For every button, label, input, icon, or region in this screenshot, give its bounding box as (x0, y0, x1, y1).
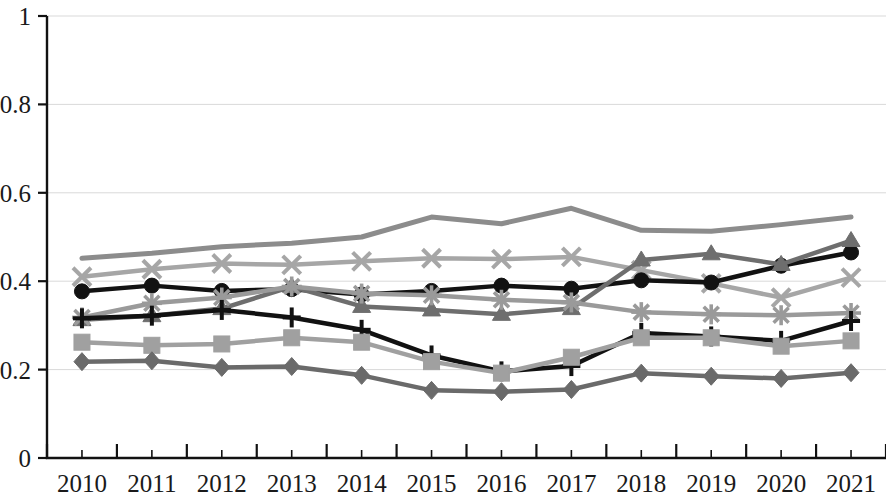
square-marker (74, 334, 90, 350)
square-marker (424, 354, 440, 370)
diamond-marker (74, 353, 90, 371)
series-circle-black (74, 245, 858, 302)
circle-marker (844, 245, 859, 260)
diamond-marker (284, 358, 300, 376)
series-square-gray-line (82, 338, 851, 373)
series-top-gray-nomarker (82, 208, 851, 258)
circle-marker (144, 278, 159, 293)
diamond-marker (493, 383, 509, 401)
chart-plot-area: 10.80.60.40.20 2010201120122013201420152… (0, 0, 886, 500)
circle-marker (704, 275, 719, 290)
plus-marker (283, 307, 301, 327)
star-marker (771, 305, 791, 325)
square-marker (843, 333, 859, 349)
series-triangle-darkgray-line (82, 241, 851, 320)
diamond-marker (424, 381, 440, 399)
diamond-marker (354, 366, 370, 384)
series-star-gray (72, 277, 861, 328)
x-axis-tick-labels: 2010201120122013201420152016201720182019… (57, 470, 876, 497)
star-marker (631, 302, 651, 322)
square-marker (493, 365, 509, 381)
square-marker (703, 330, 719, 346)
x-tick-label: 2018 (616, 470, 666, 497)
x-tick-label: 2021 (826, 470, 876, 497)
x-tick-label: 2016 (476, 470, 526, 497)
diamond-marker (773, 369, 789, 387)
x-tick-label: 2014 (337, 470, 388, 497)
y-tick-label: 0.8 (0, 91, 31, 118)
line-chart: 10.80.60.40.20 2010201120122013201420152… (0, 0, 886, 500)
x-tick-label: 2011 (127, 470, 176, 497)
diamond-marker (843, 364, 859, 382)
square-marker (284, 330, 300, 346)
x-tick-label: 2010 (57, 470, 107, 497)
diamond-marker (563, 380, 579, 398)
star-marker (422, 285, 442, 305)
y-tick-label: 0.6 (0, 180, 31, 207)
y-tick-label: 0.2 (0, 357, 31, 384)
circle-marker (74, 284, 89, 299)
series-top-gray-nomarker-line (82, 208, 851, 258)
x-tick-label: 2015 (407, 470, 457, 497)
y-tick-label: 1 (19, 3, 32, 30)
square-marker (214, 336, 230, 352)
triangle-marker (842, 232, 860, 247)
star-marker (352, 284, 372, 304)
y-axis-tick-labels: 10.80.60.40.20 (0, 3, 32, 472)
star-marker (701, 304, 721, 324)
y-tick-label: 0.4 (0, 268, 32, 295)
x-tick-label: 2019 (686, 470, 736, 497)
x-tick-label: 2012 (197, 470, 247, 497)
diamond-marker (144, 352, 160, 370)
star-marker (491, 290, 511, 310)
square-marker (563, 349, 579, 365)
x-tick-label: 2013 (267, 470, 317, 497)
square-marker (773, 338, 789, 354)
square-marker (354, 334, 370, 350)
y-tick-label: 0 (19, 445, 32, 472)
star-marker (282, 277, 302, 297)
square-marker (144, 337, 160, 353)
x-tick-label: 2020 (756, 470, 806, 497)
square-marker (633, 330, 649, 346)
data-series-group (72, 208, 861, 400)
diamond-marker (633, 364, 649, 382)
x-tick-label: 2017 (546, 470, 596, 497)
diamond-marker (214, 358, 230, 376)
series-diamond-darkgray (74, 352, 859, 401)
circle-marker (634, 273, 649, 288)
star-marker (561, 292, 581, 312)
